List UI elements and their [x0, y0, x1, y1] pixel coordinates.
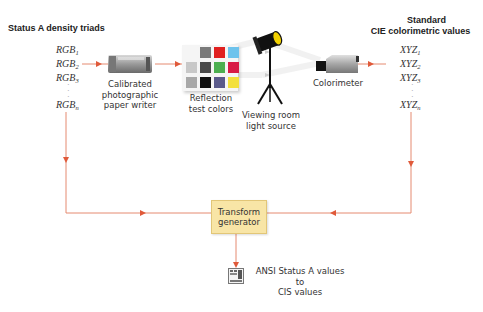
output-label: ANSI Status A values to CIS values [250, 266, 350, 298]
color-swatch [228, 77, 239, 88]
reflection-test-colors-swatches [182, 45, 238, 91]
rgb-ellipsis: ··· [67, 82, 70, 100]
test-colors-label: Reflection test colors [180, 93, 242, 114]
diagram-canvas: Status A density triads RGB1 RGB2 RGB3 ·… [0, 0, 483, 312]
color-swatch [186, 62, 197, 73]
paper-writer-icon [108, 54, 152, 74]
color-swatch [214, 77, 225, 88]
color-swatch [214, 47, 225, 58]
lookup-table-icon [228, 268, 244, 284]
color-swatch [200, 77, 211, 88]
color-swatch [214, 62, 225, 73]
light-source-label: Viewing room light source [238, 110, 304, 131]
rgb-item-n: RGBn [56, 99, 79, 113]
colorimeter-icon [316, 53, 360, 75]
paper-writer-label: Calibrated photographic paper writer [95, 79, 165, 111]
xyz-item-1: XYZ1 [400, 44, 420, 58]
xyz-item-n: XYZn [400, 99, 420, 113]
color-swatch [228, 62, 239, 73]
color-swatch [228, 47, 239, 58]
color-swatch [200, 62, 211, 73]
xyz-ellipsis: ··· [411, 82, 414, 100]
transform-generator-box: Transform generator [211, 200, 267, 234]
color-swatch [186, 77, 197, 88]
colorimeter-label: Colorimeter [308, 78, 368, 89]
color-swatch [186, 47, 197, 58]
xyz-item-2: XYZ2 [400, 58, 420, 72]
color-swatch [200, 47, 211, 58]
right-column-title-line2: CIE colorimetric values [358, 26, 483, 36]
light-source-icon [250, 28, 290, 106]
rgb-item-1: RGB1 [56, 44, 79, 58]
rgb-item-2: RGB2 [56, 58, 79, 72]
right-column-title-line1: Standard [370, 15, 483, 25]
left-column-title: Status A density triads [8, 23, 105, 33]
